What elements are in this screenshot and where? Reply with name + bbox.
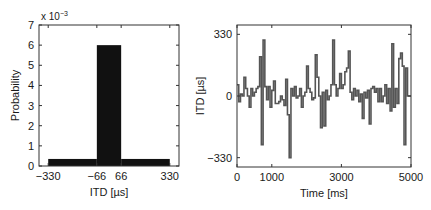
- x-tick-label: 5000: [399, 171, 423, 183]
- itd-time-trace-chart: −33003300100030005000Time [ms]ITD [µs]: [194, 25, 423, 199]
- itd-trace-line: [237, 40, 411, 158]
- y-tick-label: 6: [28, 39, 34, 51]
- figure: 01234567−330−6666330x 10−3ITD [µs]Probab…: [0, 0, 431, 210]
- x-tick-label: 330: [161, 170, 179, 182]
- y-tick-label: 4: [28, 79, 34, 91]
- y-tick-label: 2: [28, 120, 34, 132]
- y-tick-label: 0: [28, 160, 34, 172]
- histogram-bar: [97, 45, 121, 166]
- y-tick-label: 3: [28, 100, 34, 112]
- x-axis-label: ITD [µs]: [90, 186, 129, 198]
- x-tick-label: 66: [115, 170, 127, 182]
- y-exponent-label: x 10−3: [41, 10, 68, 22]
- x-tick-label: 0: [234, 171, 240, 183]
- x-tick-label: 3000: [329, 171, 353, 183]
- x-axis-label: Time [ms]: [300, 187, 348, 199]
- y-tick-label: 7: [28, 19, 34, 31]
- y-tick-label: 5: [28, 59, 34, 71]
- y-tick-label: 330: [214, 28, 232, 40]
- x-tick-label: 1000: [260, 171, 284, 183]
- itd-histogram-chart: 01234567−330−6666330x 10−3ITD [µs]Probab…: [9, 10, 179, 198]
- y-axis-label: ITD [µs]: [194, 77, 206, 116]
- histogram-bar: [48, 159, 97, 166]
- y-tick-label: −330: [207, 152, 232, 164]
- y-tick-label: 1: [28, 140, 34, 152]
- x-tick-label: −330: [36, 170, 61, 182]
- histogram-bar: [121, 159, 170, 166]
- y-axis-label: Probability: [9, 69, 21, 121]
- y-tick-label: 0: [226, 90, 232, 102]
- x-tick-label: −66: [88, 170, 107, 182]
